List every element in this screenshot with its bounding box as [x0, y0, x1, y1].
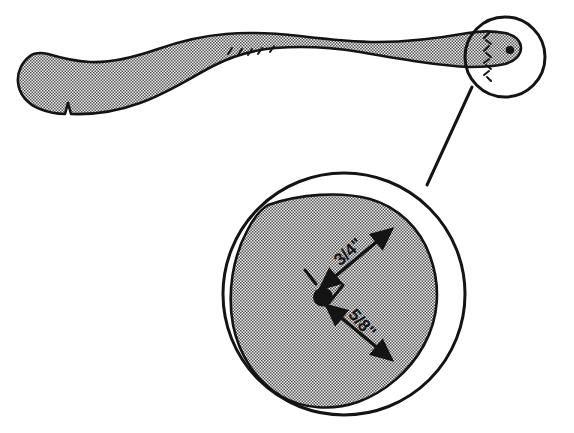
detail-view: 3/4" 5/8"	[223, 173, 465, 415]
technical-drawing-canvas: 3/4" 5/8"	[0, 0, 574, 433]
technical-drawing: 3/4" 5/8"	[0, 0, 574, 433]
handle-hole	[506, 46, 514, 54]
detail-hole	[313, 288, 333, 307]
